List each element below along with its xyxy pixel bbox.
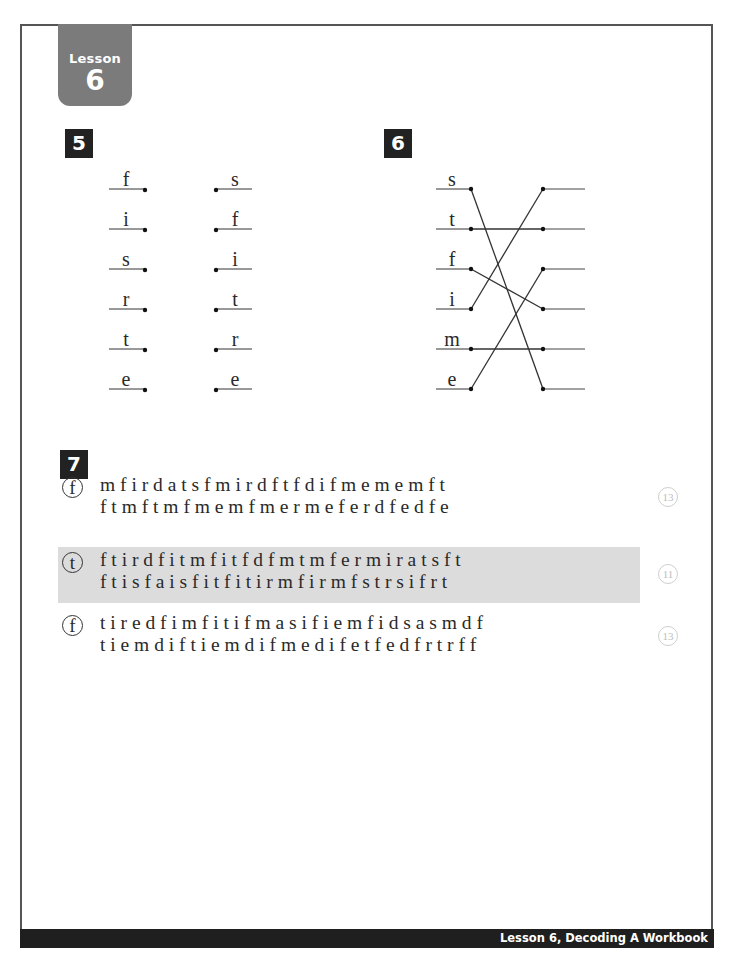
dot[interactable] (469, 387, 473, 391)
left-letter: i (449, 288, 455, 310)
drill-line-2: t i e m d i f t i e m d i f m e d i f e … (100, 634, 476, 656)
dot[interactable] (469, 307, 473, 311)
drill-row-3: f t i r e d f i m f i t i f m a s i f i … (58, 612, 640, 668)
drill-row-2: t f t i r d f i t m f i t f d f m t m f … (58, 547, 640, 603)
exercise-6-matching: stfime (0, 0, 734, 420)
dot[interactable] (541, 347, 545, 351)
drill-line-1: m f i r d a t s f m i r d f t f d i f m … (100, 474, 445, 496)
left-letter: s (448, 168, 456, 190)
drill-line-2: f t i s f a i s f i t f i t i r m f i r … (100, 571, 447, 593)
drill-line-2: f t m f t m f m e m f m e r m e f e r d … (100, 496, 449, 518)
drill-row-1: f m f i r d a t s f m i r d f t f d i f … (58, 474, 640, 530)
dot[interactable] (541, 227, 545, 231)
dot[interactable] (541, 307, 545, 311)
dot[interactable] (469, 347, 473, 351)
drill-line-1: t i r e d f i m f i t i f m a s i f i e … (100, 612, 483, 634)
left-letter: m (444, 328, 460, 350)
footer-title: Lesson 6, Decoding A Workbook (500, 931, 708, 945)
drill-line-1: f t i r d f i t m f i t f d f m t m f e … (100, 549, 461, 571)
footer-bar: Lesson 6, Decoding A Workbook (20, 929, 714, 948)
dot[interactable] (541, 187, 545, 191)
left-letter: e (448, 368, 457, 390)
target-letter-circle[interactable]: f (62, 477, 83, 498)
dot[interactable] (469, 227, 473, 231)
count-circle: 13 (658, 626, 678, 646)
connection-line (471, 189, 543, 309)
connection-line (471, 269, 543, 389)
dot[interactable] (469, 187, 473, 191)
dot[interactable] (469, 267, 473, 271)
dot[interactable] (541, 387, 545, 391)
count-circle: 11 (658, 564, 678, 584)
target-letter-circle[interactable]: f (62, 615, 83, 636)
dot[interactable] (541, 267, 545, 271)
count-circle: 13 (658, 487, 678, 507)
left-letter: f (449, 248, 456, 270)
target-letter-circle[interactable]: t (62, 552, 83, 573)
left-letter: t (449, 208, 455, 230)
connection-line (471, 269, 543, 309)
